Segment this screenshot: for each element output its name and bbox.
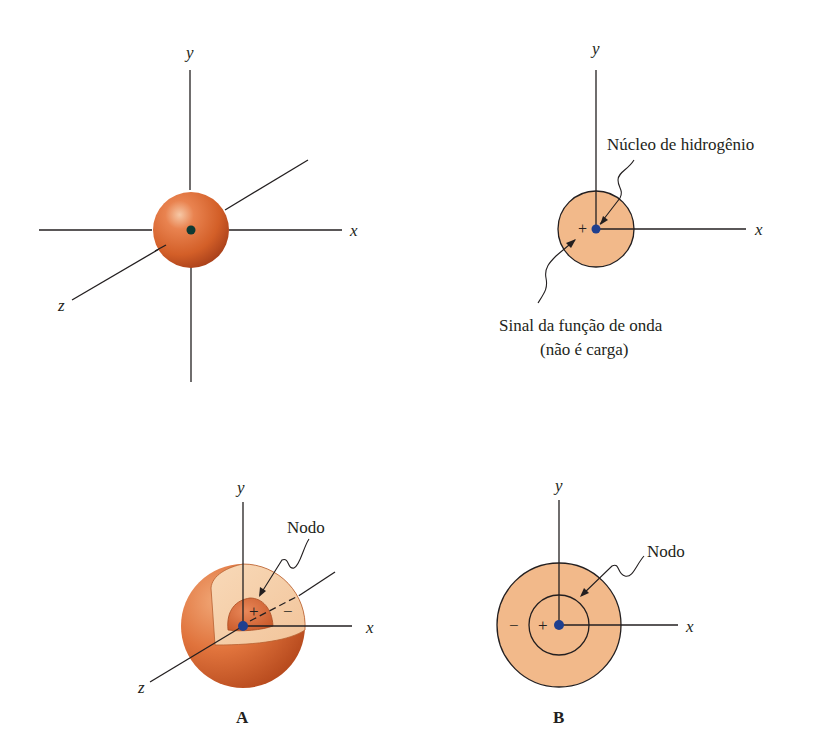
x-axis-label: x [754,220,763,239]
z-axis-label: z [137,678,145,697]
nucleus-dot [187,226,196,235]
panel-1s-2d: + y x Núcleo de hidrogênio Sinal da funç… [499,39,763,359]
node-label: Nodo [647,542,685,561]
sign-label-line1: Sinal da função de onda [499,316,663,335]
nucleus-dot [238,621,248,631]
y-axis-label: y [590,39,600,58]
outer-sign-minus: − [283,602,293,621]
z-axis-back-solid [300,572,335,595]
x-axis-label: x [685,617,694,636]
inner-sign-plus: + [249,602,259,621]
y-axis-label: y [184,43,194,62]
y-axis-label: y [553,476,563,495]
sign-plus: + [578,220,587,237]
z-axis-label: z [57,296,65,315]
inner-sign-plus: + [538,616,548,635]
nucleus-dot [592,225,601,234]
panel-B-2s-2d: + − y x Nodo B [497,476,694,727]
z-axis-front [72,245,166,300]
nucleus-label: Núcleo de hidrogênio [607,135,754,154]
x-axis-label: x [365,618,374,637]
sign-label-line2: (não é carga) [540,340,628,359]
x-axis-label: x [349,221,358,240]
panel-caption-A: A [236,708,249,727]
node-label: Nodo [287,518,325,537]
y-axis-label: y [235,478,245,497]
panel-1s-3d: y x z [39,43,358,382]
z-axis-back [225,160,308,210]
nucleus-dot [554,620,564,630]
panel-caption-B: B [553,708,564,727]
outer-sign-minus: − [509,616,519,635]
orbital-figure: y x z + y x Núcleo de hidrogênio Sinal d… [0,0,825,734]
panel-A-2s-3d: + − y x z Nodo A [137,478,374,727]
